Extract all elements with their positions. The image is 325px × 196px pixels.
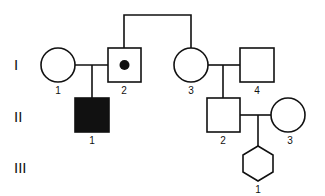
individual-I-1-circle bbox=[41, 48, 75, 82]
individual-II-3-label: 3 bbox=[287, 135, 293, 146]
individual-I-4-square bbox=[240, 48, 274, 82]
individual-II-1-label: 1 bbox=[89, 135, 95, 146]
individual-I-1-label: 1 bbox=[55, 85, 61, 96]
generation-label-I: I bbox=[14, 56, 18, 73]
pedigree-diagram: I II III 1 2 3 4 1 2 3 1 bbox=[0, 0, 325, 196]
generation-label-III: III bbox=[14, 159, 27, 176]
individual-II-1-square-affected bbox=[75, 98, 109, 132]
individual-I-4-label: 4 bbox=[254, 85, 260, 96]
generation-label-II: II bbox=[14, 108, 22, 125]
sibship-line-I2-I3 bbox=[124, 15, 191, 48]
individual-I-2-label: 2 bbox=[121, 85, 127, 96]
individual-I-3-label: 3 bbox=[188, 85, 194, 96]
individual-III-1-label: 1 bbox=[255, 184, 261, 195]
carrier-dot-icon bbox=[120, 60, 130, 70]
individual-II-2-label: 2 bbox=[220, 135, 226, 146]
individual-III-1-hexagon bbox=[243, 146, 273, 181]
individual-I-3-circle bbox=[174, 48, 208, 82]
individual-II-3-circle bbox=[271, 98, 305, 132]
individual-II-2-square bbox=[207, 98, 240, 132]
